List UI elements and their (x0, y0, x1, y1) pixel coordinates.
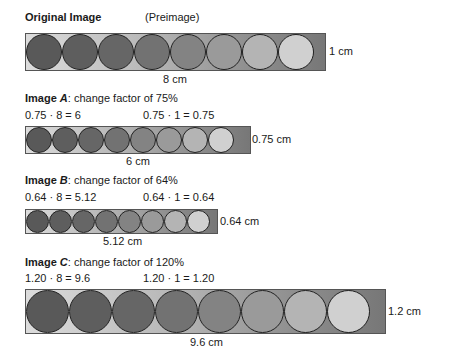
circle-shape (69, 290, 112, 333)
circle-shape (118, 210, 141, 233)
circle-shape (206, 34, 242, 70)
circle-shape (198, 290, 241, 333)
image-b-caption: Image B: change factor of 64% (25, 174, 178, 186)
original-title: Original Image (25, 11, 101, 23)
circle-shape (170, 34, 206, 70)
image-b-height-label: 0.64 cm (220, 215, 259, 227)
circle-shape (278, 34, 314, 70)
original-width-label: 8 cm (163, 73, 187, 85)
circle-shape (187, 210, 210, 233)
circle-shape (164, 210, 187, 233)
image-c-height-label: 1.2 cm (388, 305, 421, 317)
original-strip (25, 33, 326, 71)
image-b-strip (25, 209, 218, 234)
circle-shape (130, 127, 156, 153)
circle-shape (72, 210, 95, 233)
circle-shape (98, 34, 134, 70)
circle-shape (62, 34, 98, 70)
circle-shape (26, 127, 52, 153)
circle-shape (134, 34, 170, 70)
circle-shape (284, 290, 327, 333)
image-c-name: Image C (25, 256, 68, 268)
image-a-caption: Image A: change factor of 75% (25, 92, 178, 104)
image-c-strip (25, 289, 386, 334)
image-c-caption: Image C: change factor of 120% (25, 256, 184, 268)
image-a-height-label: 0.75 cm (252, 133, 291, 145)
circle-shape (95, 210, 118, 233)
image-b-name: Image B (25, 174, 68, 186)
circle-shape (156, 127, 182, 153)
image-b-calc-height: 0.64 · 1 = 0.64 (143, 191, 214, 203)
original-subtitle: (Preimage) (145, 11, 199, 23)
circle-shape (26, 210, 49, 233)
circle-shape (182, 127, 208, 153)
image-b-width-label: 5.12 cm (103, 235, 142, 247)
circle-shape (242, 34, 278, 70)
image-c-calc-width: 1.20 · 8 = 9.6 (25, 272, 90, 284)
image-a-calc-height: 0.75 · 1 = 0.75 (143, 109, 214, 121)
circle-shape (155, 290, 198, 333)
original-height-label: 1 cm (329, 45, 353, 57)
circle-shape (241, 290, 284, 333)
circle-shape (112, 290, 155, 333)
image-c-width-label: 9.6 cm (190, 336, 223, 348)
circle-shape (78, 127, 104, 153)
image-a-name: Image A (25, 92, 68, 104)
image-c-calc-height: 1.20 · 1 = 1.20 (143, 272, 214, 284)
circle-shape (327, 290, 370, 333)
image-b-calc-width: 0.64 · 8 = 5.12 (25, 191, 96, 203)
circle-shape (104, 127, 130, 153)
circle-shape (141, 210, 164, 233)
circle-shape (49, 210, 72, 233)
circle-shape (208, 127, 234, 153)
image-a-strip (25, 126, 251, 154)
circle-shape (26, 290, 69, 333)
image-a-width-label: 6 cm (126, 155, 150, 167)
circle-shape (26, 34, 62, 70)
circle-shape (52, 127, 78, 153)
image-a-calc-width: 0.75 · 8 = 6 (25, 109, 81, 121)
